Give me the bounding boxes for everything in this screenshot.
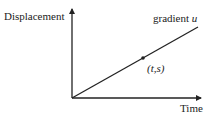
displacement-time-diagram: Displacement Time gradient u (t,s)	[0, 0, 210, 128]
y-axis-label: Displacement	[4, 10, 64, 22]
displacement-line	[72, 27, 198, 98]
point-marker	[141, 56, 145, 60]
gradient-label: gradient u	[153, 12, 198, 24]
x-axis-label: Time	[180, 102, 203, 114]
point-label: (t,s)	[147, 62, 165, 75]
